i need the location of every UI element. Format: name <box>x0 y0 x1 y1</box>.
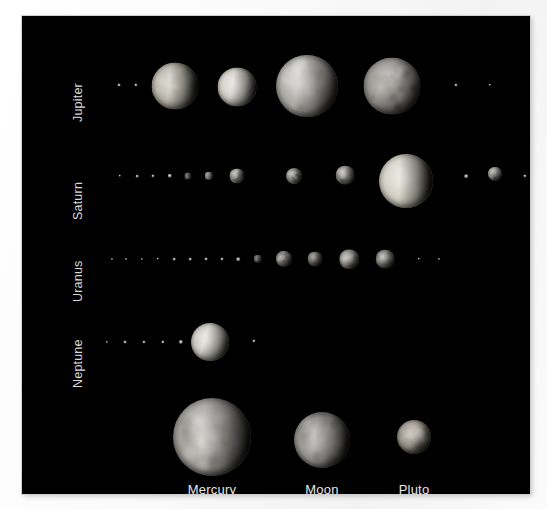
moon-neptune-1 <box>124 341 127 344</box>
moon-uranus-3 <box>157 258 159 260</box>
terminator-shadow <box>152 63 199 110</box>
terminator-shadow <box>307 251 322 266</box>
moon-saturn-11 <box>488 167 502 181</box>
moon-saturn-9 <box>379 154 433 208</box>
moon-jupiter-1 <box>134 83 137 86</box>
moon-uranus-9 <box>254 255 262 263</box>
terminator-shadow <box>191 323 229 361</box>
image-plate: JupiterSaturnUranusNeptuneMercuryMoonPlu… <box>22 16 530 494</box>
moon-saturn-12 <box>523 174 526 177</box>
reference-label-pluto: Pluto <box>399 482 430 494</box>
figure-root: JupiterSaturnUranusNeptuneMercuryMoonPlu… <box>0 0 547 509</box>
terminator-shadow <box>276 251 292 267</box>
row-label-neptune: Neptune <box>71 339 85 388</box>
moon-uranus-2 <box>141 258 143 260</box>
moon-jupiter-5 <box>364 58 421 115</box>
moon-saturn-8 <box>336 166 355 185</box>
moon-jupiter-6 <box>455 84 458 87</box>
reference-label-moon: Moon <box>305 482 338 494</box>
moon-jupiter-0 <box>118 84 121 87</box>
terminator-shadow <box>488 167 502 181</box>
terminator-shadow <box>376 250 395 269</box>
moon-neptune-5 <box>191 323 229 361</box>
terminator-shadow <box>379 154 433 208</box>
moon-uranus-4 <box>173 258 176 261</box>
moon-uranus-6 <box>205 258 208 261</box>
moon-saturn-2 <box>151 174 154 177</box>
terminator-shadow <box>205 172 213 180</box>
reference-body-mercury <box>173 398 251 476</box>
terminator-shadow <box>184 172 191 179</box>
moon-neptune-2 <box>143 341 146 344</box>
terminator-shadow <box>173 398 251 476</box>
terminator-shadow <box>294 412 350 468</box>
terminator-shadow <box>397 420 431 454</box>
moon-saturn-10 <box>464 174 468 178</box>
moon-uranus-8 <box>236 257 240 261</box>
moon-uranus-5 <box>189 258 192 261</box>
moon-saturn-7 <box>286 168 302 184</box>
moon-neptune-3 <box>161 340 164 343</box>
terminator-shadow <box>339 249 359 269</box>
moon-neptune-0 <box>106 341 108 343</box>
moon-uranus-12 <box>339 249 359 269</box>
row-label-uranus: Uranus <box>71 261 85 303</box>
moon-neptune-4 <box>179 340 183 344</box>
moon-uranus-10 <box>276 251 292 267</box>
moon-uranus-7 <box>221 258 224 261</box>
moon-neptune-6 <box>252 339 255 342</box>
moon-saturn-6 <box>229 168 244 183</box>
moon-saturn-1 <box>136 175 139 178</box>
moon-saturn-3 <box>168 174 172 178</box>
moon-jupiter-3 <box>218 68 257 107</box>
row-label-jupiter: Jupiter <box>71 83 85 122</box>
reference-label-mercury: Mercury <box>188 482 236 494</box>
terminator-shadow <box>336 166 355 185</box>
moon-saturn-4 <box>184 172 191 179</box>
terminator-shadow <box>286 168 302 184</box>
moon-uranus-0 <box>111 258 113 260</box>
moon-saturn-5 <box>205 172 213 180</box>
terminator-shadow <box>229 168 244 183</box>
reference-body-pluto <box>397 420 431 454</box>
reference-body-moon <box>294 412 350 468</box>
moon-uranus-11 <box>307 251 322 266</box>
moon-uranus-14 <box>418 258 420 260</box>
terminator-shadow <box>276 55 338 117</box>
row-label-saturn: Saturn <box>71 182 85 220</box>
moon-jupiter-4 <box>276 55 338 117</box>
terminator-shadow <box>218 68 257 107</box>
moon-jupiter-7 <box>489 84 491 86</box>
terminator-shadow <box>364 58 421 115</box>
moon-uranus-13 <box>376 250 395 269</box>
moon-uranus-15 <box>438 258 440 260</box>
terminator-shadow <box>254 255 262 263</box>
moon-uranus-1 <box>125 258 127 260</box>
moon-saturn-0 <box>119 175 121 177</box>
moon-jupiter-2 <box>152 63 199 110</box>
